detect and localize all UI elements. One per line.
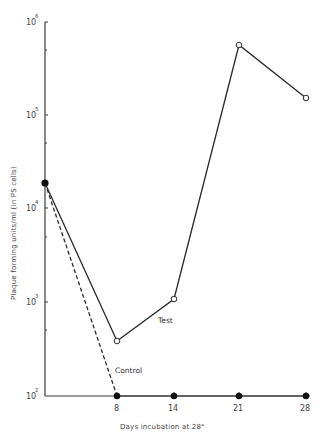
control-line: [45, 183, 117, 396]
x-label-21: 21: [233, 404, 243, 413]
test-point-day8: [114, 338, 120, 344]
x-label-28: 28: [300, 404, 310, 413]
y-label-1e6-exp: 6: [35, 13, 39, 19]
y-label-1e4: 10: [26, 204, 36, 213]
y-label-1e5: 10: [26, 111, 36, 120]
y-label-1e5-exp: 5: [35, 106, 39, 112]
test-point-day28: [303, 95, 309, 101]
x-label-8: 8: [114, 404, 119, 413]
x-label-14: 14: [168, 404, 178, 413]
control-point-day0: [41, 179, 48, 186]
plaque-chart: 10 6 10 5 10 4 10 3 10 2 Plaque forming …: [0, 0, 323, 435]
control-point-day28: [303, 393, 310, 400]
test-point-day21: [236, 42, 242, 48]
x-axis-title: Days incubation at 28°: [120, 423, 205, 431]
y-label-1e3-exp: 3: [35, 293, 39, 299]
x-tick-labels: 8 14 21 28: [114, 404, 310, 413]
control-series-label: Control: [115, 366, 142, 375]
y-label-1e2: 10: [26, 392, 36, 401]
y-label-1e3: 10: [26, 298, 36, 307]
control-point-day21: [236, 393, 243, 400]
control-point-day14: [171, 393, 178, 400]
y-tick-labels: 10 6 10 5 10 4 10 3 10 2: [26, 13, 39, 401]
y-label-1e4-exp: 4: [35, 199, 39, 205]
test-markers: [114, 42, 309, 344]
y-label-1e2-exp: 2: [35, 387, 39, 393]
y-axis-title: Plaque forming units/ml (in PS cells): [10, 166, 18, 300]
y-label-1e6: 10: [26, 18, 36, 27]
test-series-label: Test: [157, 316, 173, 325]
test-point-day14: [171, 296, 177, 302]
control-point-day8: [114, 393, 121, 400]
